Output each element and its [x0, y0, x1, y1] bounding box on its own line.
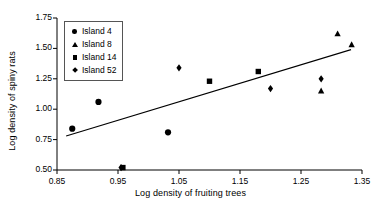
- data-point-circle: [69, 126, 75, 132]
- data-point-circle: [165, 129, 171, 135]
- x-axis-tick-label: 0.95: [98, 176, 138, 186]
- legend-item-island-8[interactable]: Island 8: [69, 38, 117, 51]
- legend-item-island-52[interactable]: Island 52: [69, 64, 117, 77]
- data-point-square: [256, 69, 261, 74]
- data-point-triangle: [334, 30, 340, 36]
- x-axis-tick-label: 1.15: [220, 176, 260, 186]
- x-axis-tick-label: 1.35: [342, 176, 381, 186]
- data-point-circle: [95, 99, 101, 105]
- y-axis-tick-label: 1.75: [8, 12, 52, 22]
- scatter-chart: Island 4Island 8Island 14Island 52 Log d…: [0, 0, 381, 208]
- legend-item-label: Island 52: [82, 64, 117, 77]
- legend-item-label: Island 4: [82, 25, 112, 38]
- data-point-triangle: [318, 88, 324, 94]
- y-axis-tick-label: 1.25: [8, 73, 52, 83]
- legend-item-label: Island 8: [82, 38, 112, 51]
- data-point-diamond: [319, 75, 324, 82]
- triangle-marker-icon: [69, 38, 82, 51]
- data-point-triangle: [349, 41, 355, 47]
- legend-item-label: Island 14: [82, 51, 117, 64]
- diamond-marker-icon: [69, 64, 82, 77]
- data-point-square: [207, 79, 212, 84]
- y-axis-tick-label: 1.50: [8, 42, 52, 52]
- y-axis-tick-label: 0.50: [8, 164, 52, 174]
- x-axis-tick-label: 1.25: [281, 176, 321, 186]
- legend-item-island-14[interactable]: Island 14: [69, 51, 117, 64]
- x-axis-title: Log density of fruiting trees: [0, 188, 381, 198]
- x-axis-tick-label: 0.85: [37, 176, 77, 186]
- data-point-diamond: [176, 64, 181, 71]
- circle-marker-icon: [69, 25, 82, 38]
- chart-legend: Island 4Island 8Island 14Island 52: [64, 21, 123, 81]
- legend-item-island-4[interactable]: Island 4: [69, 25, 117, 38]
- y-axis-tick-label: 0.75: [8, 134, 52, 144]
- x-axis-tick-label: 1.05: [159, 176, 199, 186]
- y-axis-tick-label: 1.00: [8, 103, 52, 113]
- data-point-diamond: [268, 85, 273, 92]
- square-marker-icon: [69, 51, 82, 64]
